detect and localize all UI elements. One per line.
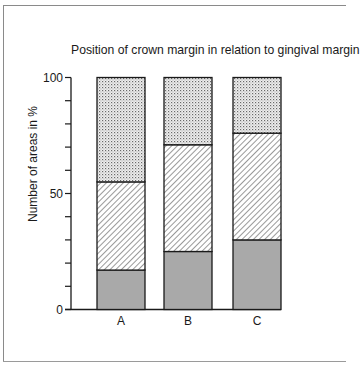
y-tick-label: 100 [43, 71, 63, 85]
y-tick-label: 0 [56, 303, 63, 317]
x-tick-label: B [184, 314, 192, 328]
bar-b [164, 78, 212, 310]
bars [97, 78, 281, 310]
x-tick-label: C [253, 314, 262, 328]
x-tick-label: A [117, 314, 125, 328]
bar-segment-top [164, 78, 212, 145]
bar-segment-bottom [97, 270, 145, 309]
bar-segment-bottom [164, 252, 212, 310]
bar-a [97, 78, 145, 310]
bar-segment-middle [233, 133, 281, 240]
bar-segment-top [97, 78, 145, 182]
y-tick-label: 50 [50, 187, 64, 201]
bar-segment-top [233, 78, 281, 134]
bar-segment-middle [97, 182, 145, 270]
bar-c [233, 78, 281, 310]
bar-segment-bottom [233, 240, 281, 310]
bar-segment-middle [164, 145, 212, 252]
axis-labels: 100500ABC [43, 71, 262, 328]
